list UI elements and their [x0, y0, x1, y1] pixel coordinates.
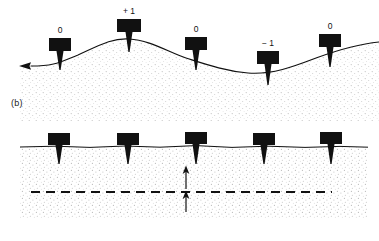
stake-elevation-label: − 1 [262, 38, 274, 48]
panel-b-canvas: 0 + 1 0 − 1 0 [0, 0, 379, 121]
panel-c: (c) [0, 120, 379, 241]
panel-c-canvas [0, 120, 379, 241]
stake-elevation-label: 0 [58, 25, 63, 35]
stake-elevation-label: 0 [194, 24, 199, 34]
stake-elevation-label: 0 [328, 21, 333, 31]
figure-root: 0 + 1 0 − 1 0 [0, 0, 379, 241]
panel-b: 0 + 1 0 − 1 0 [0, 0, 379, 121]
stake-elevation-label: + 1 [123, 6, 135, 16]
panel-b-caption-label: (b) [11, 98, 23, 108]
